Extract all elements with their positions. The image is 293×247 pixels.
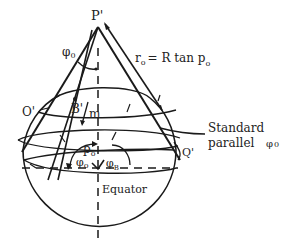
mid-parallel-back: [18, 130, 180, 140]
conic-projection-diagram: P' φ0 ro= R tan po O' B' m po φo φB Q' E…: [0, 0, 293, 247]
r0-arrow-line: [105, 24, 162, 110]
label-standard-parallel-phi: φ0: [266, 138, 279, 149]
label-standard: Standard: [208, 121, 264, 135]
standard-parallel-pointer: [160, 128, 205, 134]
standard-parallel-back: [52, 88, 150, 100]
standard-parallel-front: [38, 110, 176, 118]
p0-arrowhead-right: [92, 141, 98, 147]
point-b-dot: [73, 97, 77, 101]
label-phi-b: φB: [106, 157, 119, 172]
cone-left-edge: [22, 27, 98, 152]
label-r0-formula: ro= R tan po: [135, 51, 211, 68]
m-arrowhead: [80, 120, 85, 126]
label-m: m: [89, 107, 101, 121]
equator-back: [24, 149, 174, 160]
label-point-b: B': [71, 102, 83, 116]
phi-b-arc: [112, 145, 130, 165]
cone-right-edge: [98, 27, 180, 160]
sphere-right-outline: [150, 98, 176, 150]
phi0-top-arc-end: [94, 67, 97, 70]
label-point-o: O': [22, 105, 35, 119]
label-parallel: parallel: [208, 136, 255, 150]
label-point-q: Q': [182, 146, 194, 159]
sphere-lower-outline: [23, 150, 176, 227]
p0-arrowhead-left: [66, 163, 72, 170]
label-phi0-bottom: φo: [76, 156, 89, 170]
label-apex-p: P': [91, 8, 103, 23]
label-phi0-top: φ0: [62, 45, 76, 60]
label-equator: Equator: [102, 183, 148, 196]
r0-arrowhead-bottom: [158, 105, 163, 112]
